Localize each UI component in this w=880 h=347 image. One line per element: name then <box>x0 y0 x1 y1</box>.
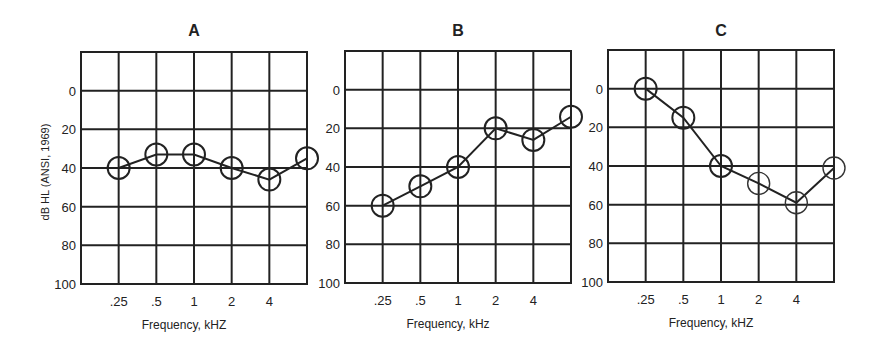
y-tick-label: 60 <box>589 198 603 213</box>
y-tick-label: 0 <box>69 84 76 99</box>
x-axis-label: Frequency, kHz <box>406 317 489 331</box>
y-tick-label: 20 <box>62 122 76 137</box>
x-tick-label: .25 <box>637 292 655 307</box>
x-tick-label: 4 <box>793 292 800 307</box>
y-tick-label: 100 <box>581 275 603 290</box>
series-line <box>646 89 834 203</box>
x-tick-label: 4 <box>530 293 537 308</box>
y-tick-label: 20 <box>589 120 603 135</box>
x-tick-label: 2 <box>228 294 235 309</box>
y-tick-label: 60 <box>326 199 340 214</box>
y-tick-label: 40 <box>589 159 603 174</box>
x-axis-label: Frequency, kHZ <box>142 318 226 332</box>
x-tick-label: 2 <box>755 292 762 307</box>
chart-title: B <box>452 22 464 39</box>
x-tick-label: 1 <box>454 293 461 308</box>
y-tick-label: 100 <box>54 277 76 292</box>
x-axis-label: Frequency, kHZ <box>669 316 753 330</box>
y-axis-label: dB HL (ANSI, 1969) <box>39 124 51 221</box>
x-tick-label: .25 <box>110 294 128 309</box>
x-tick-label: .25 <box>374 293 392 308</box>
y-tick-label: 80 <box>589 236 603 251</box>
y-tick-label: 100 <box>318 276 340 291</box>
y-tick-label: 0 <box>596 82 603 97</box>
x-tick-label: 1 <box>190 294 197 309</box>
x-tick-label: 4 <box>266 294 273 309</box>
x-tick-label: .5 <box>678 292 689 307</box>
chart-title: A <box>188 22 200 39</box>
chart-panel-a: A020406080100.25.5124Frequency, kHZ <box>54 22 318 332</box>
y-axis-title: dB HL (ANSI, 1969) <box>39 124 51 221</box>
y-tick-label: 0 <box>333 83 340 98</box>
chart-panel-b: B020406080100.25.5124Frequency, kHz <box>318 22 582 331</box>
audiogram-figure: dB HL (ANSI, 1969) A020406080100.25.5124… <box>0 0 880 347</box>
y-tick-label: 40 <box>62 161 76 176</box>
y-tick-label: 60 <box>62 200 76 215</box>
chart-title: C <box>715 22 727 39</box>
x-tick-label: .5 <box>415 293 426 308</box>
y-tick-label: 80 <box>62 238 76 253</box>
x-tick-label: 1 <box>717 292 724 307</box>
x-tick-label: 2 <box>492 293 499 308</box>
y-tick-label: 80 <box>326 237 340 252</box>
chart-panel-c: C020406080100.25.5124Frequency, kHZ <box>581 22 845 330</box>
y-tick-label: 40 <box>326 160 340 175</box>
x-tick-label: .5 <box>151 294 162 309</box>
y-tick-label: 20 <box>326 121 340 136</box>
